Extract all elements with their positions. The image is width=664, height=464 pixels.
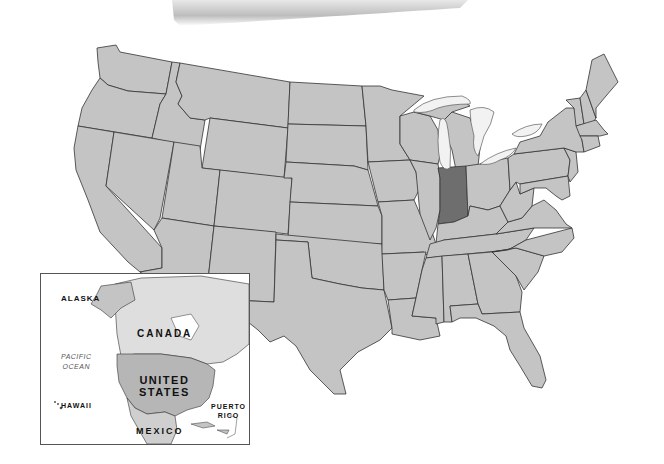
label-canada: CANADA [137, 328, 192, 339]
label-puerto-rico: PUERTO RICO [211, 402, 246, 420]
label-states: STATES [139, 386, 190, 398]
hawaii-island [57, 403, 59, 405]
state-colorado[interactable] [214, 170, 292, 234]
label-united-states: UNITED STATES [139, 374, 190, 398]
label-pacific: PACIFIC [61, 352, 92, 362]
north-america-inset: ALASKA CANADA PACIFIC OCEAN UNITED STATE… [40, 273, 250, 445]
hawaii-island [54, 401, 56, 403]
label-pacific-ocean: PACIFIC OCEAN [61, 352, 92, 372]
label-hawaii: HAWAII [61, 402, 92, 409]
state-montana[interactable] [176, 63, 290, 128]
label-ocean: OCEAN [61, 362, 92, 372]
state-iowa[interactable] [368, 160, 420, 202]
label-united: UNITED [139, 374, 190, 386]
state-florida[interactable] [450, 304, 546, 388]
label-puerto: PUERTO [211, 402, 246, 411]
label-rico: RICO [211, 411, 246, 420]
state-wyoming[interactable] [202, 118, 288, 178]
lake-ontario [512, 124, 542, 137]
state-indiana[interactable] [438, 166, 468, 224]
state-nebraska[interactable] [284, 162, 378, 206]
label-alaska: ALASKA [61, 294, 100, 303]
caribbean-islands [191, 422, 229, 434]
label-mexico: MEXICO [136, 426, 184, 436]
state-north-dakota[interactable] [288, 82, 366, 126]
